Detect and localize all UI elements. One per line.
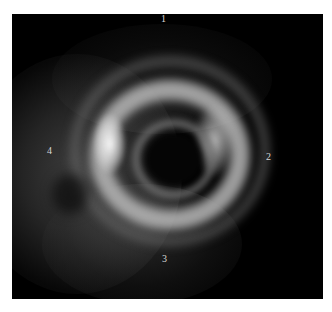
bright-spot-left	[94, 114, 126, 174]
dark-region-left	[52, 174, 88, 214]
region-label-3: 3	[162, 254, 167, 264]
region-label-4: 4	[47, 146, 52, 156]
dark-core	[144, 132, 202, 186]
region-label-2: 2	[266, 152, 271, 162]
figure-caption	[0, 301, 332, 312]
region-label-1: 1	[161, 14, 166, 24]
scan-image-panel: 1 2 3 4	[12, 14, 323, 299]
